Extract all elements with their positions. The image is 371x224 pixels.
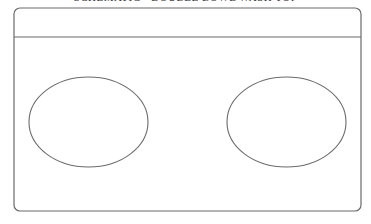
vanity-top-diagram bbox=[0, 0, 371, 224]
countertop-outline bbox=[14, 8, 361, 211]
left-bowl-outline bbox=[29, 77, 148, 167]
right-bowl-outline bbox=[227, 77, 346, 167]
